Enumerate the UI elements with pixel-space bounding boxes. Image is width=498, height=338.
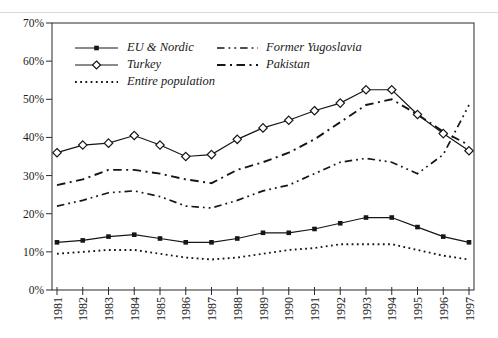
marker-filled-square-eu-nordic: [312, 227, 317, 232]
marker-filled-square-eu-nordic: [364, 215, 369, 220]
x-axis-tick-label: 1987: [205, 297, 219, 321]
x-axis-tick-label: 1991: [308, 297, 322, 321]
x-axis-tick-label: 1990: [282, 297, 296, 321]
marker-filled-square-eu-nordic: [235, 236, 240, 241]
line-chart-plot: 0%10%20%30%40%50%60%70%19811982198319841…: [0, 0, 498, 338]
marker-filled-square-eu-nordic: [106, 234, 111, 239]
x-axis-tick-label: 1994: [385, 297, 399, 321]
marker-filled-square-eu-nordic: [441, 234, 446, 239]
x-axis-tick-label: 1997: [463, 297, 477, 321]
series-line-entire-population: [57, 244, 469, 259]
x-axis-tick-label: 1982: [76, 297, 90, 321]
x-axis-tick-label: 1984: [128, 297, 142, 321]
x-axis-tick-label: 1988: [231, 297, 245, 321]
x-axis-tick-label: 1995: [411, 297, 425, 321]
x-axis-tick-label: 1993: [360, 297, 374, 321]
marker-open-diamond-turkey: [465, 147, 473, 155]
marker-open-diamond-turkey: [156, 141, 164, 149]
marker-filled-square-eu-nordic: [389, 215, 394, 220]
marker-open-diamond-turkey: [182, 152, 190, 160]
marker-open-diamond-turkey: [104, 139, 112, 147]
marker-filled-square-eu-nordic: [209, 240, 214, 245]
y-axis-tick-label: 10%: [23, 246, 45, 258]
marker-open-diamond-turkey: [233, 135, 241, 143]
y-axis-tick-label: 0%: [29, 284, 45, 296]
x-axis-tick-label: 1985: [154, 297, 168, 321]
y-axis-tick-label: 70%: [23, 17, 45, 29]
y-axis-tick-label: 30%: [23, 170, 45, 182]
marker-filled-square-eu-nordic: [158, 236, 163, 241]
marker-open-diamond-turkey: [310, 107, 318, 115]
marker-open-diamond-turkey: [259, 124, 267, 132]
marker-filled-square-eu-nordic: [55, 240, 60, 245]
marker-open-diamond-turkey: [336, 99, 344, 107]
y-axis-tick-label: 60%: [23, 55, 45, 67]
y-axis-tick-label: 20%: [23, 208, 45, 220]
x-axis-tick-label: 1989: [257, 297, 271, 321]
x-axis-tick-label: 1981: [51, 297, 65, 321]
x-axis-tick-label: 1986: [179, 297, 193, 321]
x-axis-tick-label: 1996: [437, 297, 451, 321]
marker-filled-square-eu-nordic: [80, 238, 85, 243]
series-line-former-yugoslavia: [57, 105, 469, 208]
marker-filled-square-eu-nordic: [338, 221, 343, 226]
x-axis-tick-label: 1992: [334, 297, 348, 321]
marker-filled-square-eu-nordic: [261, 230, 266, 235]
marker-filled-square-eu-nordic: [286, 230, 291, 235]
marker-filled-square-eu-nordic: [467, 240, 472, 245]
marker-open-diamond-turkey: [362, 86, 370, 94]
series-line-pakistan: [57, 99, 469, 185]
y-axis-tick-label: 50%: [23, 93, 45, 105]
marker-filled-square-eu-nordic: [132, 232, 137, 237]
marker-open-diamond-turkey: [285, 116, 293, 124]
marker-open-diamond-turkey: [79, 141, 87, 149]
marker-open-diamond-turkey: [130, 131, 138, 139]
marker-filled-square-eu-nordic: [183, 240, 188, 245]
x-axis-tick-label: 1983: [102, 297, 116, 321]
marker-open-diamond-turkey: [207, 150, 215, 158]
marker-filled-square-eu-nordic: [415, 225, 420, 230]
series-line-eu-nordic: [57, 218, 469, 243]
marker-open-diamond-turkey: [53, 148, 61, 156]
line-chart-figure: 0%10%20%30%40%50%60%70%19811982198319841…: [0, 0, 498, 338]
y-axis-tick-label: 40%: [23, 131, 45, 143]
